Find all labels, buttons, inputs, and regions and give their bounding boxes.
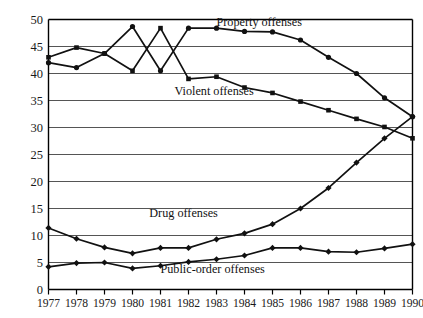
data-point xyxy=(46,55,51,60)
data-point xyxy=(74,45,79,50)
data-point xyxy=(242,29,247,34)
data-point xyxy=(74,65,79,70)
data-point xyxy=(326,55,331,60)
series-annotation-label: Property offenses xyxy=(217,15,303,29)
data-point xyxy=(270,91,275,96)
x-axis-tick-label: 1984 xyxy=(233,297,256,310)
y-axis-tick-label: 50 xyxy=(31,13,44,27)
x-axis-tick-label: 1977 xyxy=(37,297,60,310)
data-point xyxy=(382,125,387,130)
data-point xyxy=(270,29,275,34)
y-axis-tick-label: 15 xyxy=(31,202,44,216)
y-axis-tick-label: 30 xyxy=(31,121,44,135)
x-axis-tick-label: 1981 xyxy=(149,297,172,310)
y-axis-tick-label: 25 xyxy=(31,148,44,162)
data-point xyxy=(298,37,303,42)
x-axis-tick-label: 1980 xyxy=(121,297,144,310)
data-point xyxy=(186,77,191,82)
y-axis-tick-label: 10 xyxy=(31,229,44,243)
x-axis-tick-label: 1988 xyxy=(345,297,368,310)
x-axis-tick-label: 1982 xyxy=(177,297,200,310)
data-point xyxy=(102,51,107,56)
y-axis-tick-label: 0 xyxy=(37,283,43,297)
data-point xyxy=(130,69,135,74)
data-point xyxy=(410,136,415,141)
y-axis-tick-label: 5 xyxy=(37,256,43,270)
x-axis-tick-label: 1989 xyxy=(373,297,396,310)
x-axis-tick-label: 1990 xyxy=(401,297,423,310)
y-axis-tick-label: 20 xyxy=(31,175,44,189)
data-point xyxy=(326,108,331,113)
x-axis-tick-label: 1979 xyxy=(93,297,116,310)
chart-canvas: 05101520253035404550 1977197819791980198… xyxy=(0,0,423,318)
data-point xyxy=(298,99,303,104)
data-point xyxy=(354,117,359,122)
x-axis-tick-label: 1983 xyxy=(205,297,228,310)
data-point xyxy=(130,24,135,29)
x-axis-tick-label: 1987 xyxy=(317,297,340,310)
y-axis-tick-label: 35 xyxy=(31,94,44,108)
data-point xyxy=(354,71,359,76)
x-axis-tick-label: 1985 xyxy=(261,297,284,310)
data-point xyxy=(382,95,387,100)
data-point xyxy=(186,26,191,31)
series-annotation-label: Drug offenses xyxy=(149,206,218,220)
y-axis-tick-label: 45 xyxy=(31,40,44,54)
y-axis-tick-label: 40 xyxy=(31,67,44,81)
data-point xyxy=(158,68,163,73)
x-axis-tick-label: 1978 xyxy=(65,297,88,310)
x-axis-tick-label: 1986 xyxy=(289,297,312,310)
data-point xyxy=(214,74,219,79)
data-point xyxy=(158,26,163,31)
series-annotation-label: Violent offenses xyxy=(175,84,255,98)
data-point xyxy=(46,60,51,65)
series-annotation-label: Public-order offenses xyxy=(161,262,266,276)
line-chart: 05101520253035404550 1977197819791980198… xyxy=(0,0,423,318)
